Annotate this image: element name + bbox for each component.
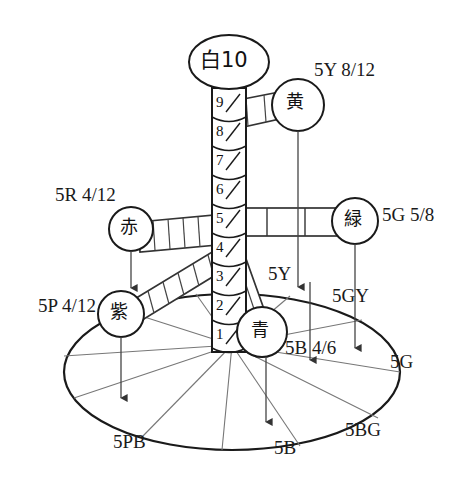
notation-purple: 5P 4/12 — [38, 296, 96, 315]
hue-label-5bg: 5BG — [345, 420, 381, 439]
value-step-9: 9 — [216, 94, 224, 111]
hue-label-5gy: 5GY — [332, 286, 369, 305]
node-label-yellow: 黄 — [286, 93, 304, 111]
node-label-blue: 青 — [251, 321, 269, 339]
node-label-white: 白10 — [200, 50, 248, 71]
hue-label-5b: 5B — [274, 438, 296, 457]
value-step-5: 5 — [216, 210, 224, 227]
value-step-2: 2 — [216, 297, 224, 314]
node-label-green: 緑 — [344, 210, 362, 228]
notation-green: 5G 5/8 — [382, 205, 434, 224]
value-step-8: 8 — [216, 123, 224, 140]
hue-label-5g: 5G — [390, 352, 413, 371]
value-step-3: 3 — [216, 268, 224, 285]
hue-label-5pb: 5PB — [113, 432, 146, 451]
hue-label-5y: 5Y — [268, 264, 291, 283]
diagram-vector-layer — [0, 0, 455, 487]
node-label-red: 赤 — [120, 218, 138, 236]
notation-blue: 5B 4/6 — [285, 338, 336, 357]
munsell-diagram-canvas: 白10 黄 赤 紫 緑 青 5Y 8/12 5R 4/12 5P 4/12 5G… — [0, 0, 455, 487]
value-step-4: 4 — [216, 239, 224, 256]
node-label-purple: 紫 — [110, 303, 128, 321]
notation-yellow: 5Y 8/12 — [314, 60, 375, 79]
value-step-6: 6 — [216, 181, 224, 198]
value-step-7: 7 — [216, 152, 224, 169]
value-step-1: 1 — [216, 326, 224, 343]
notation-red: 5R 4/12 — [55, 185, 116, 204]
